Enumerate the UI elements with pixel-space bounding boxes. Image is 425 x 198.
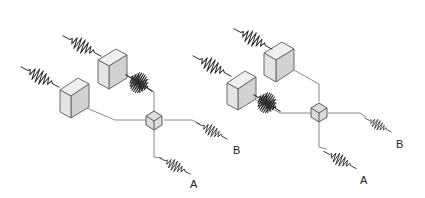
beam-out-a [154, 129, 162, 158]
wave-packet-output-b [362, 113, 394, 136]
delay-slab-lower [60, 78, 89, 118]
wave-packet-output-b [194, 118, 230, 144]
beam-out-b [328, 113, 366, 117]
delay-slab-lower [227, 71, 256, 110]
delay-slab-upper [264, 42, 294, 82]
beam-out-a [319, 122, 326, 149]
output-label-a: A [360, 174, 368, 186]
wave-packet-input-lower [189, 49, 234, 82]
wave-packet-input-lower [17, 60, 62, 93]
output-label-b: B [233, 144, 240, 156]
output-label-a: A [190, 178, 198, 190]
diagram-left: A B [17, 29, 240, 190]
beam-splitter-cube [146, 111, 162, 130]
beam-splitter-cube [311, 103, 327, 122]
diagram-right: A B [189, 22, 403, 186]
beam-out-b [164, 120, 200, 124]
interferometer-diagram: A B A B [0, 0, 425, 198]
wave-packet-input-upper [59, 29, 104, 62]
wave-packet-output-a [321, 146, 360, 174]
output-label-b: B [396, 138, 403, 150]
wave-packet-output-a [157, 153, 193, 179]
delay-slab-upper [98, 49, 127, 89]
